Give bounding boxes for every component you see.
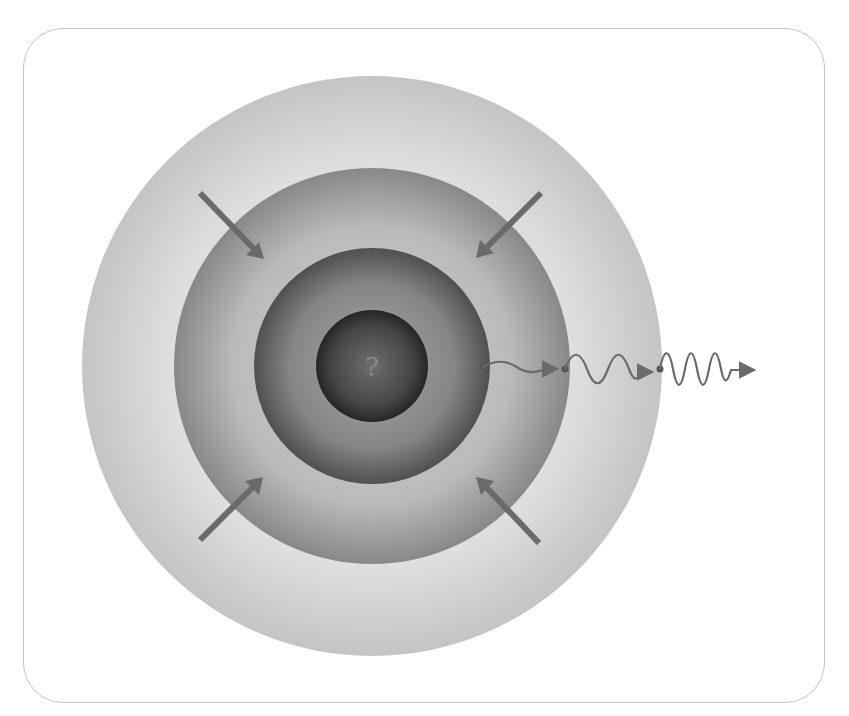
stellar-layers-diagram: ?	[0, 0, 849, 716]
core-question-mark: ?	[365, 352, 379, 382]
wave-high-frequency	[660, 353, 752, 385]
